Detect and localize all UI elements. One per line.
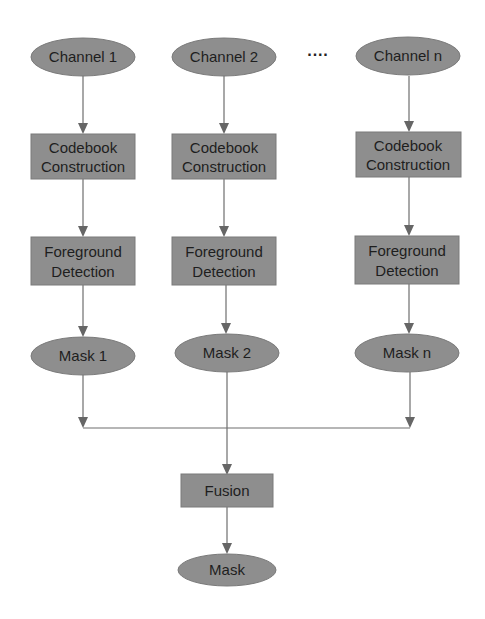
column-n: Channel n Codebook Construction Foregrou… bbox=[355, 37, 461, 372]
arrowhead-icon bbox=[404, 323, 414, 334]
arrowhead-icon bbox=[78, 417, 88, 428]
arrowhead-icon bbox=[78, 326, 88, 337]
arrowhead-icon bbox=[221, 323, 231, 334]
node-codebook-construction-2: Codebook Construction bbox=[172, 134, 276, 179]
arrowhead-icon bbox=[78, 123, 88, 134]
node-foreground-detection-2: Foreground Detection bbox=[172, 237, 276, 285]
node-label: Mask 2 bbox=[203, 344, 251, 361]
node-fusion: Fusion bbox=[181, 474, 273, 507]
arrowhead-icon bbox=[405, 417, 415, 428]
node-output-mask: Mask bbox=[178, 554, 276, 586]
flowchart: Channel 1 Codebook Construction Foregrou… bbox=[0, 0, 485, 619]
node-label: Channel 1 bbox=[49, 48, 117, 65]
node-channel-1: Channel 1 bbox=[31, 38, 135, 76]
node-label-line1: Codebook bbox=[190, 139, 259, 156]
node-label-line2: Detection bbox=[375, 262, 438, 279]
arrowhead-icon bbox=[222, 543, 232, 554]
node-codebook-construction-n: Codebook Construction bbox=[356, 132, 461, 177]
node-label-line1: Codebook bbox=[374, 137, 443, 154]
node-label-line2: Construction bbox=[366, 156, 450, 173]
node-label-line1: Foreground bbox=[44, 243, 122, 260]
node-label-line2: Detection bbox=[51, 263, 114, 280]
node-label: Mask 1 bbox=[59, 347, 107, 364]
node-label: Mask bbox=[209, 561, 245, 578]
arrowhead-icon bbox=[219, 226, 229, 237]
node-label-line2: Detection bbox=[192, 263, 255, 280]
node-mask-n: Mask n bbox=[355, 334, 459, 372]
node-label-line2: Construction bbox=[41, 158, 125, 175]
node-codebook-construction-1: Codebook Construction bbox=[31, 134, 135, 179]
node-label: Channel n bbox=[374, 47, 442, 64]
node-label-line1: Foreground bbox=[368, 242, 446, 259]
arrowhead-icon bbox=[78, 226, 88, 237]
node-label: Mask n bbox=[383, 344, 431, 361]
node-foreground-detection-n: Foreground Detection bbox=[355, 236, 459, 284]
arrowhead-icon bbox=[404, 225, 414, 236]
arrowhead-icon bbox=[222, 464, 232, 475]
node-channel-2: Channel 2 bbox=[172, 38, 276, 76]
arrowhead-icon bbox=[219, 123, 229, 134]
node-label-line2: Construction bbox=[182, 158, 266, 175]
node-label: Fusion bbox=[204, 482, 249, 499]
node-label: Channel 2 bbox=[190, 48, 258, 65]
node-mask-2: Mask 2 bbox=[175, 334, 279, 372]
node-label-line1: Codebook bbox=[49, 139, 118, 156]
node-foreground-detection-1: Foreground Detection bbox=[31, 237, 135, 285]
node-label-line1: Foreground bbox=[185, 243, 263, 260]
ellipsis-dots: ···· bbox=[307, 46, 328, 63]
node-mask-1: Mask 1 bbox=[31, 337, 135, 375]
arrowhead-icon bbox=[404, 121, 414, 132]
node-channel-n: Channel n bbox=[356, 37, 460, 75]
